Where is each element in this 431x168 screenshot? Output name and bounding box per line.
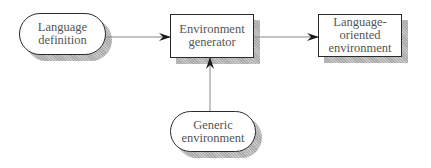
node-label: Language definition [38, 21, 87, 47]
node-label: Environment generator [179, 23, 244, 49]
node-generic-environment: Generic environment [170, 111, 256, 152]
diagram-canvas: Language definition Environment generato… [0, 0, 431, 168]
node-label: Generic environment [181, 119, 244, 145]
node-language-definition: Language definition [19, 13, 106, 55]
node-language-oriented-environment: Language- oriented environment [318, 14, 402, 57]
node-label: Language- oriented environment [328, 16, 391, 55]
node-environment-generator: Environment generator [170, 14, 254, 58]
